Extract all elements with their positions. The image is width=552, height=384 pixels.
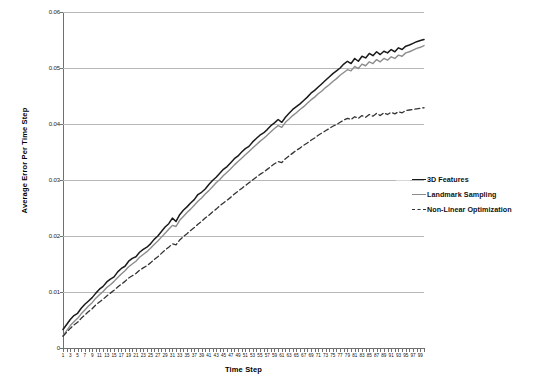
y-tick-label: 0.06 — [26, 9, 60, 16]
x-tick-mark — [406, 349, 407, 352]
x-tick-mark — [391, 349, 392, 352]
x-tick-mark — [63, 349, 64, 352]
x-tick-label: 99 — [413, 353, 427, 359]
x-tick-mark — [194, 349, 195, 352]
y-axis-ticks: 0.060.050.040.030.020.010 — [20, 12, 60, 348]
x-tick-mark — [264, 349, 265, 352]
x-tick-mark — [242, 349, 243, 352]
x-tick-mark — [256, 349, 257, 352]
legend-stray-mark — [396, 180, 410, 181]
x-tick-mark — [99, 349, 100, 352]
plot-area — [63, 12, 424, 348]
x-tick-mark — [245, 349, 246, 352]
top-edge-artifact — [100, 1, 440, 4]
x-tick-mark — [158, 349, 159, 352]
y-tick-label: 0.02 — [26, 233, 60, 240]
x-tick-mark — [340, 349, 341, 352]
x-tick-mark — [216, 349, 217, 352]
x-tick-mark — [223, 349, 224, 352]
x-tick-mark — [322, 349, 323, 352]
x-tick-mark — [253, 349, 254, 352]
x-tick-mark — [213, 349, 214, 352]
x-tick-mark — [395, 349, 396, 352]
x-tick-mark — [238, 349, 239, 352]
x-tick-mark — [420, 349, 421, 352]
y-tick-label: 0.03 — [26, 177, 60, 184]
x-tick-mark — [307, 349, 308, 352]
x-tick-mark — [205, 349, 206, 352]
x-tick-mark — [249, 349, 250, 352]
x-tick-mark — [355, 349, 356, 352]
x-tick-mark — [315, 349, 316, 352]
x-tick-mark — [154, 349, 155, 352]
x-tick-mark — [326, 349, 327, 352]
legend-line-swatch-icon — [412, 176, 426, 184]
chart-legend: 3D FeaturesLandmark SamplingNon-Linear O… — [412, 172, 548, 217]
x-tick-mark — [318, 349, 319, 352]
x-tick-mark — [136, 349, 137, 352]
x-tick-mark — [92, 349, 93, 352]
x-tick-mark — [351, 349, 352, 352]
x-tick-mark — [89, 349, 90, 352]
x-tick-mark — [380, 349, 381, 352]
x-tick-mark — [413, 349, 414, 352]
x-tick-mark — [384, 349, 385, 352]
x-tick-mark — [296, 349, 297, 352]
x-tick-mark — [74, 349, 75, 352]
legend-label: 3D Features — [427, 175, 469, 184]
y-tick-label: 0.01 — [26, 289, 60, 296]
x-tick-mark — [81, 349, 82, 352]
x-tick-mark — [169, 349, 170, 352]
x-tick-mark — [191, 349, 192, 352]
x-tick-mark — [85, 349, 86, 352]
x-tick-mark — [227, 349, 228, 352]
x-tick-mark — [183, 349, 184, 352]
legend-item[interactable]: Landmark Sampling — [412, 187, 548, 202]
x-tick-mark — [209, 349, 210, 352]
x-tick-mark — [289, 349, 290, 352]
x-tick-mark — [172, 349, 173, 352]
x-tick-mark — [282, 349, 283, 352]
x-tick-mark — [114, 349, 115, 352]
y-tick-label: 0.04 — [26, 121, 60, 128]
x-axis-ticks: 1357911131517192123252729313335373941434… — [63, 349, 424, 363]
y-tick-label: 0 — [26, 345, 60, 352]
x-tick-mark — [70, 349, 71, 352]
x-tick-mark — [110, 349, 111, 352]
x-tick-mark — [344, 349, 345, 352]
series-line — [63, 46, 424, 336]
series-layer — [63, 12, 424, 348]
x-tick-mark — [304, 349, 305, 352]
x-tick-mark — [165, 349, 166, 352]
x-tick-mark — [129, 349, 130, 352]
x-tick-mark — [96, 349, 97, 352]
x-tick-mark — [103, 349, 104, 352]
series-line — [63, 108, 424, 336]
legend-line-swatch-icon — [412, 191, 426, 199]
x-tick-mark — [234, 349, 235, 352]
x-tick-mark — [300, 349, 301, 352]
x-tick-mark — [366, 349, 367, 352]
x-tick-mark — [271, 349, 272, 352]
x-tick-mark — [358, 349, 359, 352]
x-tick-mark — [176, 349, 177, 352]
x-tick-mark — [336, 349, 337, 352]
x-tick-mark — [143, 349, 144, 352]
y-tick-label: 0.05 — [26, 65, 60, 72]
x-tick-mark — [161, 349, 162, 352]
x-tick-mark — [388, 349, 389, 352]
x-tick-mark — [311, 349, 312, 352]
x-tick-mark — [202, 349, 203, 352]
legend-item[interactable]: Non-Linear Optimization — [412, 202, 548, 217]
x-tick-mark — [121, 349, 122, 352]
x-tick-mark — [118, 349, 119, 352]
x-tick-mark — [377, 349, 378, 352]
x-axis-title: Time Step — [63, 365, 424, 374]
legend-line-swatch-icon — [412, 206, 426, 214]
x-tick-mark — [260, 349, 261, 352]
legend-item[interactable]: 3D Features — [412, 172, 548, 187]
chart-figure: Average Error Per Time Step 0.060.050.04… — [0, 0, 552, 384]
x-tick-mark — [267, 349, 268, 352]
x-tick-mark — [333, 349, 334, 352]
series-line — [63, 39, 424, 329]
